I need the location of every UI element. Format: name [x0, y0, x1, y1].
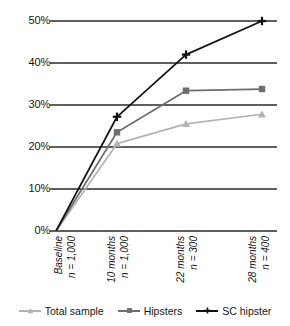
series-line — [56, 21, 262, 231]
data-point-marker — [258, 17, 266, 25]
data-point-marker — [183, 88, 189, 94]
gridlines — [50, 21, 277, 231]
legend-key-cross-icon — [196, 306, 218, 316]
legend-label: Total sample — [45, 305, 104, 317]
x-tick-sublabel: n = 400 — [261, 236, 271, 270]
x-tick-10-months: 10 months n = 1,000 — [97, 236, 123, 306]
x-tick-sublabel: n = 1,000 — [67, 236, 77, 278]
x-tick-sublabel: n = 1,000 — [120, 236, 130, 278]
line-chart: 50% 40% 30% 20% 10% 0% Baseline n = 1,00… — [0, 0, 290, 326]
legend-item-hipsters: Hipsters — [118, 305, 183, 317]
data-point-marker — [259, 86, 265, 92]
legend-label: SC hipster — [222, 305, 271, 317]
chart-legend: Total sample Hipsters SC hipster — [0, 300, 290, 322]
x-tick-sublabel: n = 300 — [189, 236, 199, 270]
data-point-marker — [114, 129, 120, 135]
legend-item-total-sample: Total sample — [19, 305, 104, 317]
x-tick-22-months: 22 months n = 300 — [166, 236, 192, 306]
legend-item-sc-hipster: SC hipster — [196, 305, 271, 317]
x-tick-28-months: 28 months n = 400 — [238, 236, 264, 306]
x-tick-baseline: Baseline n = 1,000 — [44, 236, 70, 306]
legend-key-triangle-icon — [19, 306, 41, 316]
x-tick-label: 28 months — [248, 236, 258, 283]
series-markers — [113, 17, 266, 147]
x-tick-label: 10 months — [107, 236, 117, 283]
legend-label: Hipsters — [144, 305, 183, 317]
series-line — [56, 89, 262, 231]
series-lines — [56, 21, 262, 231]
x-tick-label: 22 months — [176, 236, 186, 283]
x-tick-label: Baseline — [54, 236, 64, 274]
legend-key-square-icon — [118, 306, 140, 316]
